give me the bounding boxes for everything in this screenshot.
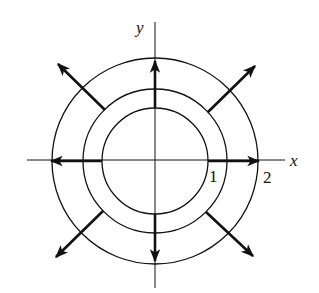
arrow-northwest [58, 64, 105, 110]
vector-field-diagram: y x 1 2 [0, 0, 319, 293]
y-axis-label: y [134, 18, 144, 37]
arrow-northeast [208, 66, 255, 112]
x-axis-label: x [289, 151, 298, 170]
tick-label-2: 2 [263, 168, 272, 187]
tick-label-1: 1 [209, 167, 218, 186]
arrow-southwest [56, 211, 103, 257]
arrow-southeast [206, 212, 253, 256]
